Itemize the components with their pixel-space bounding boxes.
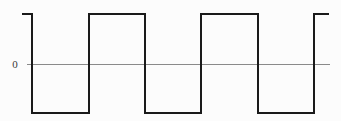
square-wave-figure: 0 <box>0 0 341 121</box>
waveform-plot <box>0 0 341 121</box>
zero-axis-label: 0 <box>8 56 22 72</box>
